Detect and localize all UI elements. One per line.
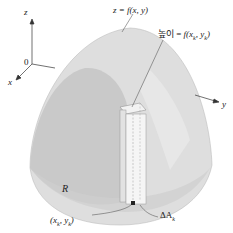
volume-column (120, 103, 146, 205)
height-label-end: ) (207, 29, 210, 39)
y-axis-label: y (222, 100, 226, 109)
area-label-sub: k (172, 216, 175, 222)
point-label-mid: , y (60, 215, 69, 225)
point-label: (xk, yk) (50, 216, 74, 227)
height-label-func: f(x (184, 29, 194, 39)
z-axis-label: z (24, 8, 28, 17)
region-label: R (62, 184, 68, 194)
surface-label: z = f(x, y) (113, 6, 148, 15)
height-label-prefix: 높이 = (158, 29, 184, 39)
height-label-mid: , y (196, 29, 205, 39)
origin-label: 0 (24, 58, 29, 67)
height-label: 높이 = f(xk, yk) (158, 30, 210, 41)
point-label-close: ) (71, 215, 74, 225)
x-axis-label: x (8, 78, 12, 87)
area-label-delta: ΔA (160, 210, 172, 220)
area-label: ΔAk (160, 211, 175, 222)
point-label-open: (x (50, 215, 57, 225)
